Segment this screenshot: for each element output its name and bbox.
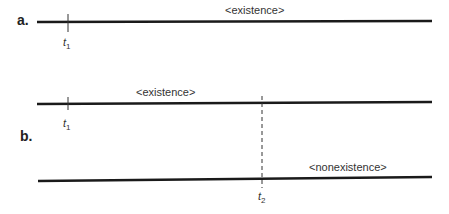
timeline-lines [0, 0, 449, 214]
t1-label-a: t1 [63, 36, 71, 51]
nonexistence-label-b: <nonexistence> [309, 161, 387, 173]
existence-label-b: <existence> [136, 86, 195, 98]
timeline-b-bottom-line [38, 177, 432, 181]
t2-label-b: t2 [258, 190, 266, 205]
timeline-b-top-line [37, 102, 432, 104]
timeline-diagram: a. <existence> t1 <existence> t1 b. <non… [0, 0, 449, 214]
panel-b-label: b. [20, 128, 32, 144]
t1-label-b: t1 [63, 117, 71, 132]
panel-a-label: a. [17, 12, 29, 28]
existence-label-a: <existence> [225, 4, 284, 16]
timeline-a-line [37, 21, 432, 22]
